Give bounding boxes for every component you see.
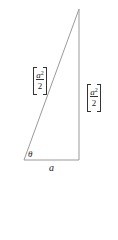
hypotenuse-denominator: 2	[33, 81, 47, 91]
vertical-side-denominator: 2	[87, 98, 101, 108]
base-label: a	[49, 162, 54, 173]
angle-theta-label: θ	[28, 149, 32, 159]
hypotenuse-label: a2 2	[33, 67, 47, 93]
vertical-side-label: a2 2	[87, 84, 101, 110]
